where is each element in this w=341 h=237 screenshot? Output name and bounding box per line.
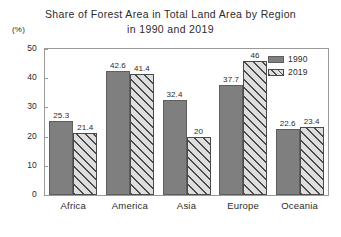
chart-title-line-2: in 1990 and 2019 — [0, 22, 341, 37]
x-axis-label-europe: Europe — [215, 199, 272, 212]
bar-1990-america[interactable]: 42.6 — [106, 71, 130, 195]
legend-label-2019: 2019 — [288, 67, 308, 78]
bar-value-label: 41.4 — [134, 64, 150, 74]
bar-value-label: 37.7 — [223, 75, 239, 85]
legend-label-1990: 1990 — [288, 54, 308, 65]
bar-value-label: 23.4 — [304, 117, 320, 127]
y-axis-tick-label: 40 — [27, 72, 37, 83]
bar-2019-america[interactable]: 41.4 — [130, 74, 154, 195]
bar-value-label: 21.4 — [77, 123, 93, 133]
x-axis-label-america: America — [102, 199, 159, 212]
x-axis-label-africa: Africa — [45, 199, 102, 212]
y-axis-tick-label: 10 — [27, 160, 37, 171]
bar-value-label: 46 — [251, 51, 260, 61]
chart-legend: 1990 2019 — [268, 52, 322, 80]
bar-2019-asia[interactable]: 20 — [187, 137, 211, 195]
chart-title: Share of Forest Area in Total Land Area … — [0, 7, 341, 37]
x-axis-label-asia: Asia — [158, 199, 215, 212]
bar-2019-oceania[interactable]: 23.4 — [300, 127, 324, 195]
y-axis-tick-label: 30 — [27, 101, 37, 112]
bar-2019-europe[interactable]: 46 — [243, 61, 267, 195]
y-axis-tick-label: 0 — [32, 189, 37, 200]
bar-group: 32.420 — [163, 49, 211, 195]
chart-container: Share of Forest Area in Total Land Area … — [0, 0, 341, 237]
y-axis-tick-label: 20 — [27, 131, 37, 142]
bar-group: 42.641.4 — [106, 49, 154, 195]
bar-1990-africa[interactable]: 25.3 — [49, 121, 73, 195]
y-axis-tick-label: 50 — [27, 43, 37, 54]
legend-item-2019[interactable]: 2019 — [268, 67, 322, 78]
legend-item-1990[interactable]: 1990 — [268, 54, 322, 65]
x-axis-category-labels: AfricaAmericaAsiaEuropeOceania — [45, 199, 328, 215]
bar-group: 37.746 — [219, 49, 267, 195]
bar-value-label: 20 — [194, 127, 203, 137]
legend-swatch-1990-icon — [268, 56, 284, 63]
bar-value-label: 32.4 — [167, 90, 183, 100]
y-axis-tick-mark — [44, 195, 48, 196]
bar-1990-oceania[interactable]: 22.6 — [276, 129, 300, 195]
legend-swatch-2019-icon — [268, 69, 284, 76]
bar-value-label: 22.6 — [280, 119, 296, 129]
bar-value-label: 42.6 — [110, 61, 126, 71]
bar-1990-europe[interactable]: 37.7 — [219, 85, 243, 195]
bar-value-label: 25.3 — [53, 111, 69, 121]
chart-title-line-1: Share of Forest Area in Total Land Area … — [45, 8, 296, 20]
x-axis-label-oceania: Oceania — [271, 199, 328, 212]
y-axis-unit-label: (%) — [12, 25, 25, 34]
bar-group: 25.321.4 — [49, 49, 97, 195]
bar-1990-asia[interactable]: 32.4 — [163, 100, 187, 195]
bar-2019-africa[interactable]: 21.4 — [73, 133, 97, 195]
